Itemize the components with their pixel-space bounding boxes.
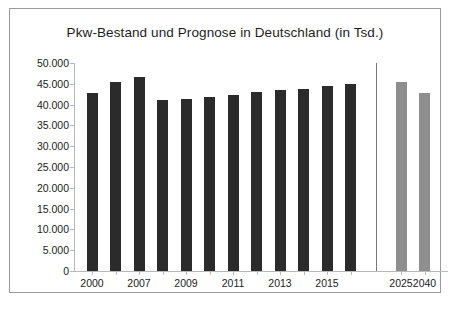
y-axis-tick-label: 40.000: [14, 99, 69, 111]
bar-forecast: [396, 82, 407, 271]
bar-series-layer: 20002007200920112013201520252040: [74, 63, 448, 271]
bar-actual: [204, 97, 215, 271]
x-axis-tick-label: 2009: [174, 277, 197, 289]
x-axis-tick-mark: [186, 271, 187, 275]
x-axis-tick-label: 2011: [222, 277, 245, 289]
x-axis-tick-mark: [116, 271, 117, 275]
bar-actual: [134, 77, 145, 271]
y-axis-tick-mark: [70, 271, 74, 272]
x-axis-tick-label: 2000: [80, 277, 103, 289]
x-axis-tick-mark: [304, 271, 305, 275]
x-axis-tick-mark: [92, 271, 93, 275]
y-axis-tick-label: 45.000: [14, 78, 69, 90]
x-axis-tick-label: 2040: [413, 277, 436, 289]
x-axis-tick-mark: [327, 271, 328, 275]
x-axis-tick-label: 2025: [389, 277, 412, 289]
bar-actual: [345, 84, 356, 271]
y-axis-tick-label: 35.000: [14, 119, 69, 131]
x-axis-tick-mark: [401, 271, 402, 275]
bar-actual: [87, 93, 98, 271]
x-axis-tick-label: 2015: [315, 277, 338, 289]
bar-actual: [181, 99, 192, 271]
x-axis-tick-mark: [280, 271, 281, 275]
bar-actual: [322, 86, 333, 271]
chart-frame: Pkw-Bestand und Prognose in Deutschland …: [9, 8, 441, 293]
bar-actual: [110, 82, 121, 271]
bar-actual: [157, 100, 168, 271]
forecast-separator-line: [376, 63, 377, 271]
y-axis-tick-label: 30.000: [14, 140, 69, 152]
x-axis-tick-mark: [425, 271, 426, 275]
x-axis-tick-mark: [233, 271, 234, 275]
y-axis-tick-label: 25.000: [14, 161, 69, 173]
y-axis-tick-label: 0: [14, 265, 69, 277]
y-axis-tick-label: 15.000: [14, 203, 69, 215]
y-axis-tick-label: 50.000: [14, 57, 69, 69]
bar-actual: [298, 89, 309, 271]
x-axis-tick-mark: [257, 271, 258, 275]
plot-area: 50.00045.00040.00035.00030.00025.00020.0…: [74, 63, 448, 271]
chart-title: Pkw-Bestand und Prognose in Deutschland …: [10, 25, 440, 40]
bar-actual: [228, 95, 239, 271]
y-axis-tick-label: 5.000: [14, 244, 69, 256]
x-axis-tick-mark: [210, 271, 211, 275]
y-axis-tick-label: 10.000: [14, 223, 69, 235]
x-axis-tick-mark: [351, 271, 352, 275]
bar-forecast: [419, 93, 430, 271]
x-axis-tick-label: 2013: [268, 277, 291, 289]
y-axis-tick-label: 20.000: [14, 182, 69, 194]
x-axis-tick-mark: [163, 271, 164, 275]
x-axis-tick-label: 2007: [127, 277, 150, 289]
x-axis-tick-mark: [139, 271, 140, 275]
bar-actual: [251, 92, 262, 271]
x-axis-line: [74, 271, 448, 272]
bar-actual: [275, 90, 286, 271]
